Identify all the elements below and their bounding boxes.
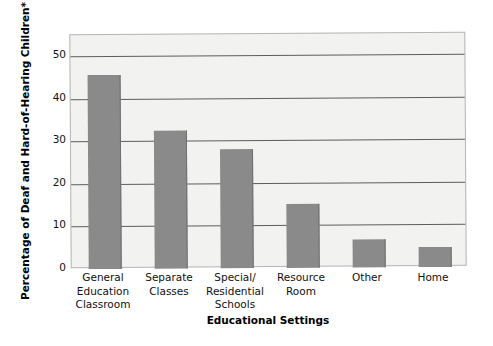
bar: [352, 240, 385, 268]
x-tick-label-line: Education: [76, 285, 131, 299]
x-tick-label: Other: [352, 271, 382, 285]
gridline-30: [71, 139, 465, 142]
x-tick-label-line: Residential: [206, 285, 264, 299]
x-axis-ticks: GeneralEducationClassroomSeparateClasses…: [70, 271, 466, 317]
x-tick-label-line: Special/: [206, 271, 264, 285]
x-tick-label: SeparateClasses: [145, 271, 193, 298]
x-tick-label-line: Schools: [206, 298, 264, 312]
x-tick-label-line: Room: [277, 285, 325, 299]
x-tick-label: ResourceRoom: [277, 271, 325, 298]
gridline-10: [71, 224, 465, 227]
bar: [219, 149, 253, 268]
gridline-50: [70, 54, 464, 57]
plot-area: [69, 32, 466, 268]
x-tick-label-line: General: [76, 271, 131, 285]
bar: [87, 75, 121, 269]
gridline-20: [71, 182, 465, 185]
x-tick-label-line: Home: [417, 271, 448, 285]
bar: [286, 204, 319, 268]
bar: [418, 246, 451, 267]
x-tick-label: Special/ResidentialSchools: [206, 271, 264, 312]
gridline-40: [71, 97, 465, 100]
x-axis-title: Educational Settings: [70, 314, 466, 326]
x-tick-label: GeneralEducationClassroom: [76, 271, 131, 312]
x-tick-label-line: Other: [352, 271, 382, 285]
x-tick-label-line: Resource: [277, 271, 325, 285]
bar: [153, 130, 187, 268]
x-tick-label-line: Classes: [145, 285, 193, 299]
x-tick-label-line: Separate: [145, 271, 193, 285]
bar-chart-figure: Percentage of Deaf and Hard-of-Hearing C…: [0, 0, 493, 346]
x-tick-label-line: Classroom: [76, 298, 131, 312]
x-tick-label: Home: [417, 271, 448, 285]
